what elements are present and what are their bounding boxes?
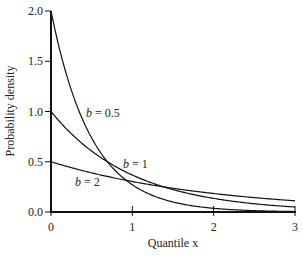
annotation-b-2: b = 2 <box>75 175 100 189</box>
y-tick-label: 0.5 <box>28 155 43 169</box>
x-tick-label: 3 <box>292 220 298 234</box>
annotation-b-1: b = 1 <box>123 157 148 171</box>
y-tick-label: 2.0 <box>28 4 43 18</box>
y-tick-label: 1.5 <box>28 54 43 68</box>
x-tick-label: 0 <box>48 220 54 234</box>
y-axis-label: Probability density <box>3 66 17 157</box>
x-ticks: 0123 <box>48 206 298 234</box>
y-tick-label: 1.0 <box>28 105 43 119</box>
y-tick-label: 0.0 <box>28 205 43 219</box>
x-tick-label: 1 <box>129 220 135 234</box>
exponential-density-chart: 0.00.51.01.52.0 0123 Quantile x Probabil… <box>0 0 303 258</box>
annotation-b-0.5: b = 0.5 <box>86 106 120 120</box>
x-tick-label: 2 <box>211 220 217 234</box>
x-axis-label: Quantile x <box>148 236 198 250</box>
y-ticks: 0.00.51.01.52.0 <box>28 4 51 219</box>
curve-b1 <box>51 112 295 208</box>
